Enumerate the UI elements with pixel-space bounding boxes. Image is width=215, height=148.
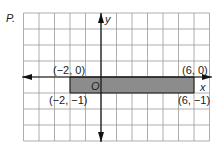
coordinate-plane: P. y x O (−2, 0) (6, 0) (6, −1) (−2, −1) [0, 0, 215, 148]
y-axis-down-arrow-icon [98, 132, 104, 142]
y-axis-label: y [104, 13, 112, 25]
problem-label: P. [6, 12, 15, 24]
vertex-label-bottom-left: (−2, −1) [49, 94, 88, 106]
vertex-label-top-left: (−2, 0) [53, 64, 85, 76]
vertex-label-bottom-right: (6, −1) [178, 94, 210, 106]
origin-label: O [91, 80, 100, 92]
y-axis-up-arrow-icon [98, 13, 104, 23]
x-axis-label: x [199, 81, 206, 93]
vertex-label-top-right: (6, 0) [182, 64, 208, 76]
shaded-rectangle [70, 77, 194, 93]
